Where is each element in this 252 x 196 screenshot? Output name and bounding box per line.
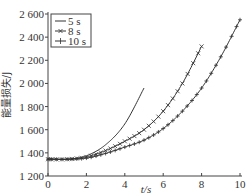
plus-marker xyxy=(238,18,242,22)
x-marker xyxy=(118,142,122,146)
legend: 5 s8 s10 s xyxy=(51,14,91,47)
x-tick-label: 6 xyxy=(160,178,166,190)
series-5s xyxy=(48,88,144,159)
x-tick-label: 8 xyxy=(199,178,205,190)
x-marker xyxy=(200,44,204,48)
plus-marker xyxy=(142,138,146,142)
y-tick-label: 2 600 xyxy=(19,8,44,20)
plus-marker xyxy=(132,142,136,146)
x-marker xyxy=(166,103,170,107)
plus-marker xyxy=(108,150,112,154)
x-marker xyxy=(161,109,165,113)
x-marker xyxy=(123,139,127,143)
x-marker xyxy=(156,115,160,119)
x-tick-label: 10 xyxy=(235,178,247,190)
plus-marker xyxy=(147,136,151,140)
series-8s xyxy=(46,44,204,161)
energy-loss-chart: 1 2001 4001 6001 8002 0002 2002 4002 600… xyxy=(0,0,252,196)
x-tick-label: 4 xyxy=(122,178,128,190)
legend-label: 10 s xyxy=(68,35,86,47)
x-marker xyxy=(152,119,156,123)
series-line xyxy=(48,88,144,159)
plus-marker xyxy=(113,148,117,152)
x-marker xyxy=(108,146,112,150)
x-marker xyxy=(176,89,180,93)
plus-marker xyxy=(224,45,228,49)
y-tick-label: 1 800 xyxy=(19,101,44,113)
x-marker xyxy=(191,61,195,65)
x-marker xyxy=(147,124,151,128)
x-marker xyxy=(180,81,184,85)
y-tick-label: 1 200 xyxy=(19,170,44,182)
x-marker xyxy=(113,144,117,148)
plus-marker xyxy=(128,143,132,147)
x-marker xyxy=(142,128,146,132)
y-axis-label: 能量损失/J xyxy=(0,72,12,118)
y-tick-label: 2 000 xyxy=(19,77,44,89)
plus-marker xyxy=(214,63,218,67)
x-marker xyxy=(137,131,141,135)
y-tick-label: 1 600 xyxy=(19,124,44,136)
x-tick-label: 0 xyxy=(45,178,51,190)
plus-marker xyxy=(118,147,122,151)
x-tick-label: 2 xyxy=(84,178,90,190)
y-tick-label: 2 400 xyxy=(19,31,44,43)
x-marker xyxy=(186,72,190,76)
plus-marker xyxy=(230,34,234,38)
x-marker xyxy=(128,137,132,141)
x-marker xyxy=(196,51,200,55)
x-marker xyxy=(171,96,175,100)
series-line xyxy=(48,46,202,159)
axes: 1 2001 4001 6001 8002 0002 2002 4002 600… xyxy=(0,8,246,195)
plus-marker xyxy=(219,55,223,59)
y-tick-label: 2 200 xyxy=(19,54,44,66)
plus-marker xyxy=(137,140,141,144)
plus-marker xyxy=(123,145,127,149)
x-marker xyxy=(132,134,136,138)
x-axis-label: t/s xyxy=(141,183,151,195)
y-tick-label: 1 400 xyxy=(19,147,44,159)
plus-marker xyxy=(235,25,239,29)
